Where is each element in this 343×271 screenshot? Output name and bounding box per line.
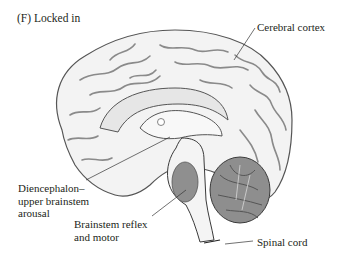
pons-lesion <box>172 162 198 202</box>
label-diencephalon-line1: Diencephalon– <box>18 182 89 195</box>
label-brainstem-line2: and motor <box>74 231 148 244</box>
label-brainstem-line1: Brainstem reflex <box>74 218 148 231</box>
label-diencephalon-line2: upper brainstem <box>18 195 89 208</box>
label-diencephalon: Diencephalon– upper brainstem arousal <box>18 182 89 220</box>
label-cerebral-cortex: Cerebral cortex <box>257 21 325 34</box>
label-spinal-cord: Spinal cord <box>257 236 307 249</box>
label-brainstem: Brainstem reflex and motor <box>74 218 148 243</box>
panel-title: (F) Locked in <box>17 12 80 24</box>
brain-sagittal-illustration <box>0 0 343 271</box>
cerebellum <box>210 157 270 223</box>
